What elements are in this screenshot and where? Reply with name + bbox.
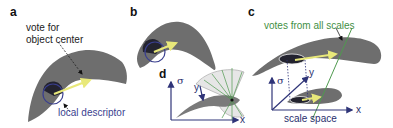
caption-scale-space: scale space	[284, 114, 337, 124]
axis-label-y-d: y	[194, 83, 199, 93]
annotation-votes-all-scales: votes from all scales	[264, 21, 355, 31]
panel-label-b: b	[130, 6, 137, 18]
axis-label-sigma-c: σ	[277, 76, 284, 86]
panel-label-a: a	[10, 6, 17, 18]
annotation-vote-line1: vote for	[26, 23, 59, 33]
panel-b-graphic	[137, 22, 216, 70]
panel-label-d: d	[159, 68, 166, 80]
panel-label-c: c	[248, 6, 255, 18]
panel-c-graphic	[252, 28, 381, 120]
annotation-local-descriptor: local descriptor	[58, 108, 125, 118]
axis-label-sigma-d: σ	[177, 76, 184, 86]
annotation-vote-line2: object center	[26, 35, 83, 45]
axis-label-x-c: x	[356, 105, 361, 115]
axis-label-y-c: y	[309, 68, 314, 78]
object-center-d	[230, 98, 233, 101]
figure: a vote for object center local descripto…	[0, 0, 393, 128]
axis-y-d	[200, 86, 203, 100]
axis-label-x-d: x	[240, 115, 245, 125]
